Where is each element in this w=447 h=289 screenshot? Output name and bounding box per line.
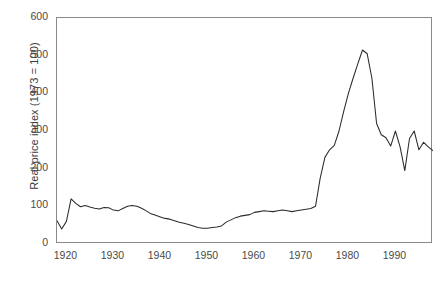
x-tick-label: 1950: [181, 249, 231, 261]
x-tick-label: 1990: [369, 249, 419, 261]
x-tick-label: 1940: [134, 249, 184, 261]
y-tick-label: 500: [0, 49, 48, 59]
x-tick-label: 1930: [87, 249, 137, 261]
y-axis-title: Real price index (1973 = 100): [28, 16, 40, 216]
x-tick-label: 1920: [40, 249, 90, 261]
plot-area: [56, 17, 432, 243]
y-tick-label: 200: [0, 162, 48, 172]
x-tick-label: 1960: [228, 249, 278, 261]
y-tick-label: 300: [0, 124, 48, 134]
y-tick-label: 100: [0, 199, 48, 209]
data-series-line: [57, 18, 433, 244]
y-tick-label: 400: [0, 86, 48, 96]
y-tick-label: 600: [0, 11, 48, 21]
y-tick-label: 0: [0, 237, 48, 247]
figure-container: Real price index (1973 = 100) 0100200300…: [0, 0, 447, 289]
x-tick-label: 1970: [275, 249, 325, 261]
x-tick-label: 1980: [322, 249, 372, 261]
